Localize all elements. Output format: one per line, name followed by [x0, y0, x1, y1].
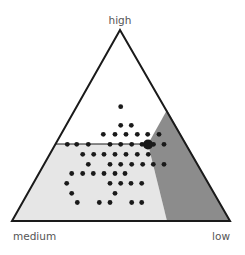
data-point — [113, 191, 118, 196]
data-point — [123, 171, 128, 176]
highlight-point — [143, 140, 153, 150]
data-point — [118, 162, 123, 167]
data-point — [146, 152, 151, 157]
label-high: high — [109, 14, 132, 26]
data-point — [65, 142, 70, 147]
data-point — [86, 142, 91, 147]
data-point — [139, 181, 144, 186]
data-point — [102, 152, 107, 157]
data-point — [124, 132, 129, 137]
data-point — [91, 152, 96, 157]
data-point — [139, 200, 144, 205]
data-point — [108, 142, 113, 147]
data-point — [86, 162, 91, 167]
data-point — [162, 142, 167, 147]
data-point — [69, 191, 74, 196]
data-point — [118, 123, 123, 128]
data-point — [102, 171, 107, 176]
data-point — [129, 142, 134, 147]
data-point — [129, 162, 134, 167]
data-point — [101, 132, 106, 137]
data-point — [80, 171, 85, 176]
data-point — [129, 181, 134, 186]
data-point — [113, 171, 118, 176]
data-point — [135, 132, 140, 137]
data-point — [140, 162, 145, 167]
data-point — [97, 200, 102, 205]
data-point — [113, 132, 118, 137]
label-low: low — [212, 230, 230, 242]
data-point — [64, 181, 69, 186]
data-point — [108, 181, 113, 186]
data-point — [145, 132, 150, 137]
data-point — [118, 181, 123, 186]
data-point — [124, 152, 129, 157]
data-point — [108, 162, 113, 167]
data-point — [129, 123, 134, 128]
data-point — [118, 104, 123, 109]
data-point — [157, 132, 162, 137]
data-point — [69, 171, 74, 176]
ternary-diagram: high medium low — [0, 0, 245, 255]
data-point — [118, 142, 123, 147]
data-point — [162, 162, 167, 167]
data-point — [80, 152, 85, 157]
data-point — [75, 200, 80, 205]
data-point — [129, 200, 134, 205]
data-point — [108, 200, 113, 205]
label-medium: medium — [13, 230, 56, 242]
data-point — [91, 171, 96, 176]
data-point — [151, 162, 156, 167]
data-point — [113, 152, 118, 157]
data-point — [74, 142, 79, 147]
data-point — [135, 152, 140, 157]
